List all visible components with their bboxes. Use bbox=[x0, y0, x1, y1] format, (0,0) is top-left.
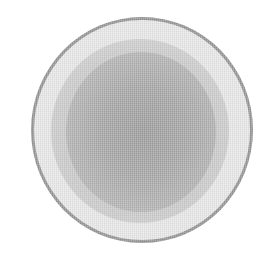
dish-center bbox=[66, 52, 216, 212]
image-canvas: Grayscale image of a round dish with a l… bbox=[0, 0, 276, 265]
